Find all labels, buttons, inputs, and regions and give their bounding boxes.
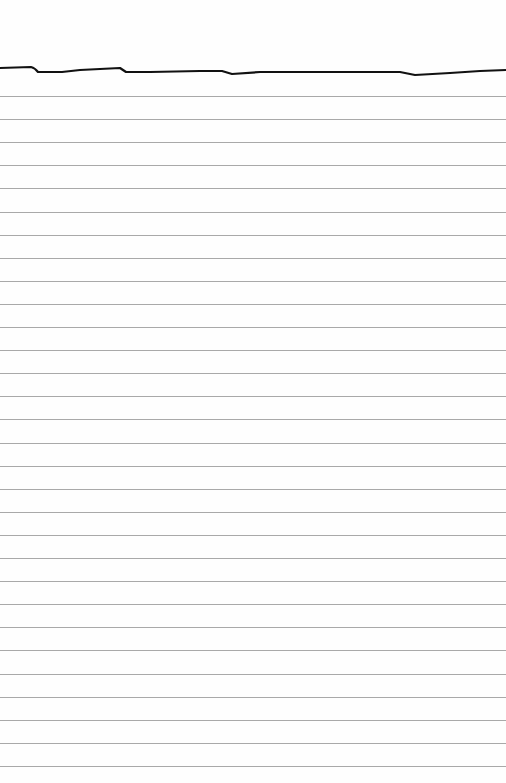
- ruled-line: [0, 581, 506, 582]
- ruled-line: [0, 627, 506, 628]
- ruled-line: [0, 165, 506, 166]
- ruled-line: [0, 766, 506, 767]
- ruled-line: [0, 743, 506, 744]
- hand-drawn-top-line: [0, 60, 506, 80]
- ruled-line: [0, 188, 506, 189]
- ruled-line: [0, 466, 506, 467]
- ruled-line: [0, 119, 506, 120]
- ruled-line: [0, 674, 506, 675]
- ruled-line: [0, 281, 506, 282]
- ruled-line: [0, 258, 506, 259]
- ruled-line: [0, 96, 506, 97]
- ruled-line: [0, 350, 506, 351]
- ruled-line: [0, 443, 506, 444]
- ruled-line: [0, 535, 506, 536]
- lined-paper-sheet: [0, 0, 506, 783]
- ruled-line: [0, 373, 506, 374]
- ruled-line: [0, 720, 506, 721]
- ruled-line: [0, 604, 506, 605]
- ruled-line: [0, 512, 506, 513]
- ruled-line: [0, 697, 506, 698]
- ruled-line: [0, 489, 506, 490]
- ruled-line: [0, 235, 506, 236]
- ruled-line: [0, 419, 506, 420]
- ruled-line: [0, 396, 506, 397]
- ruled-line: [0, 327, 506, 328]
- ruled-line: [0, 558, 506, 559]
- ruled-line: [0, 304, 506, 305]
- ruled-line: [0, 142, 506, 143]
- ruled-line: [0, 212, 506, 213]
- ruled-line: [0, 650, 506, 651]
